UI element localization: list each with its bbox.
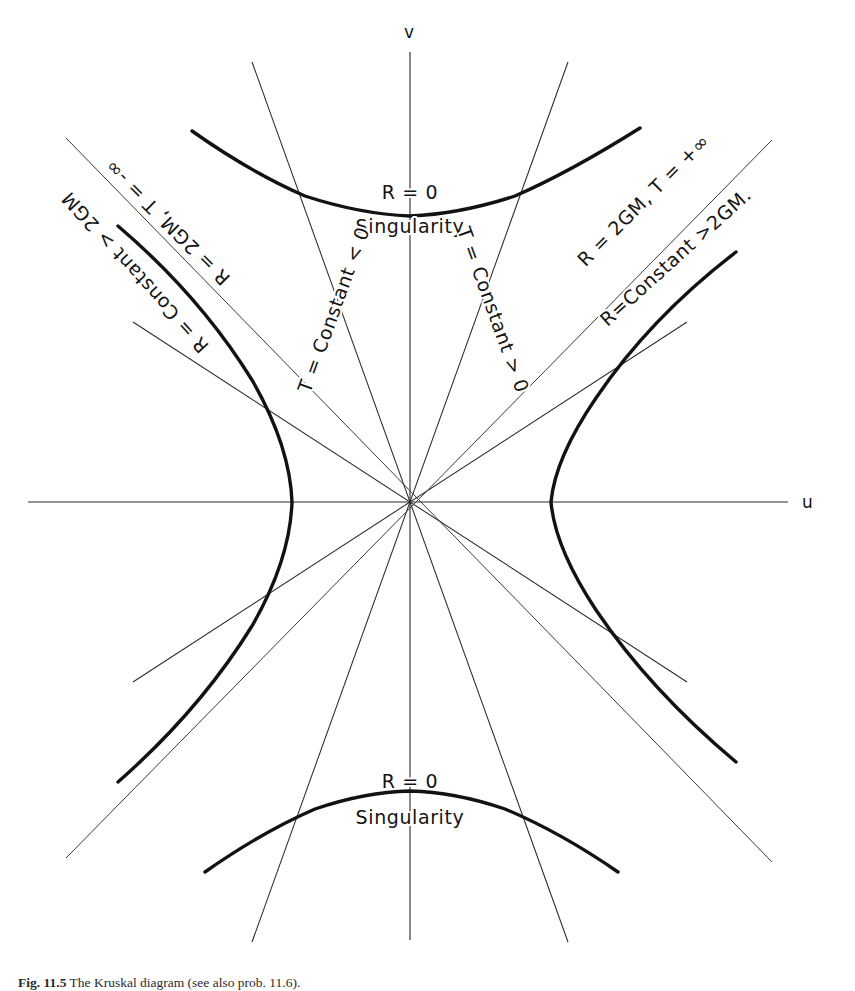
thick-curve-group — [118, 128, 736, 872]
u-axis-label: u — [802, 492, 813, 512]
left-constant-r-curve — [118, 226, 292, 782]
t-constant-negative-label: T = Constant < 0 — [293, 224, 374, 397]
v-axis-label: v — [404, 22, 414, 42]
left-constant-r-label: R = Constant > 2GM — [57, 188, 213, 358]
future-horizon-line — [66, 140, 772, 858]
past-horizon-line — [66, 138, 772, 862]
right-constant-r-curve — [551, 252, 736, 762]
figure-caption: Fig. 11.5 The Kruskal diagram (see also … — [18, 975, 300, 991]
t-constant-positive-label: T = Constant > 0 — [453, 223, 534, 396]
figure-number: Fig. 11.5 — [18, 975, 66, 990]
lower-singularity-equation: R = 0 — [382, 770, 438, 792]
figure-caption-text: The Kruskal diagram (see also prob. 11.6… — [70, 975, 301, 990]
horizon-lines — [66, 138, 772, 862]
upper-singularity-equation: R = 0 — [382, 181, 438, 203]
lower-singularity-curve — [205, 791, 618, 872]
lower-singularity-name: Singularity — [356, 806, 465, 828]
